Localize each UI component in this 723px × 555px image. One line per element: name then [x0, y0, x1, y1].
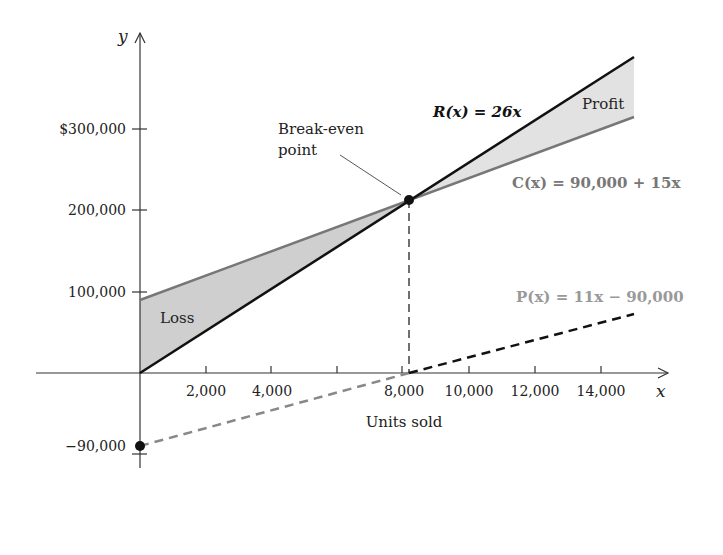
- x-tick-label: 4,000: [252, 383, 292, 399]
- cost-line: [140, 117, 634, 300]
- break-even-point: [404, 195, 414, 205]
- profit-line-positive: [409, 314, 634, 373]
- x-ticks: [206, 366, 601, 373]
- y-tick-label: 200,000: [68, 202, 126, 218]
- break-even-leader: [340, 155, 401, 195]
- revenue-equation: R(x) = 26x: [432, 103, 522, 121]
- x-tick-label: 2,000: [186, 383, 226, 399]
- x-tick-label: 10,000: [445, 383, 494, 399]
- profit-intercept-point: [135, 441, 145, 451]
- x-tick-label: 12,000: [511, 383, 560, 399]
- break-even-label: Break-even: [278, 120, 364, 138]
- x-tick-label: 14,000: [577, 383, 626, 399]
- x-tick-label: 8,000: [384, 383, 424, 399]
- x-axis-label: x: [656, 381, 666, 401]
- y-tick-label: 100,000: [68, 284, 126, 300]
- y-tick-label: $300,000: [59, 121, 126, 137]
- cost-equation: C(x) = 90,000 + 15x: [512, 174, 681, 192]
- profit-equation: P(x) = 11x − 90,000: [516, 288, 684, 306]
- x-axis-title: Units sold: [366, 413, 443, 431]
- break-even-label: point: [278, 141, 317, 159]
- loss-label: Loss: [160, 309, 194, 327]
- y-tick-label: −90,000: [65, 438, 126, 454]
- break-even-chart: 2,000 4,000 8,000 10,000 12,000 14,000 $…: [0, 0, 723, 555]
- profit-label: Profit: [582, 95, 624, 113]
- y-axis-label: y: [117, 26, 128, 46]
- revenue-line: [140, 57, 634, 373]
